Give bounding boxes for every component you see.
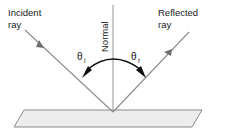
reflected-ray-label-line2: ray — [158, 19, 171, 30]
reflected-ray-arrowhead — [164, 49, 172, 56]
incident-ray-label-line2: ray — [8, 19, 21, 30]
reflected-ray-label-line1: Reflected — [158, 7, 198, 18]
normal-label: Normal — [99, 21, 110, 52]
reflecting-surface — [14, 110, 202, 127]
reflected-angle-symbol: θ — [131, 51, 137, 62]
reflected-angle-subscript: r — [138, 57, 141, 64]
reflected-ray-line — [113, 32, 189, 112]
reflection-diagram: Incident ray Reflected ray Normal θ i θ … — [0, 0, 225, 133]
incident-angle-subscript: i — [84, 57, 85, 64]
diagram-canvas: Incident ray Reflected ray Normal θ i θ … — [0, 0, 225, 133]
incident-angle-symbol: θ — [77, 51, 83, 62]
incident-ray-label-line1: Incident — [8, 7, 42, 18]
